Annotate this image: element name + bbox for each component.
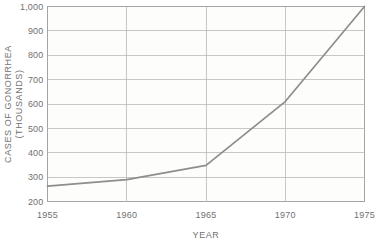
chart-container: 2003004005006007008009001,000 1955196019… (0, 0, 376, 244)
y-tick-label-500: 500 (28, 124, 44, 134)
x-tick-label-1965: 1965 (196, 210, 217, 220)
y-tick-label-400: 400 (28, 148, 44, 158)
line-chart: 2003004005006007008009001,000 1955196019… (0, 0, 376, 244)
x-tick-label-1960: 1960 (116, 210, 137, 220)
y-axis-title-line1: CASES OF GONORRHEA (3, 45, 13, 163)
x-tick-label-1975: 1975 (354, 210, 375, 220)
y-tick-label-200: 200 (28, 197, 44, 207)
x-tick-label-1970: 1970 (275, 210, 296, 220)
y-axis-title-line2: (THOUSANDS) (14, 69, 24, 138)
y-tick-label-600: 600 (28, 99, 44, 109)
x-tick-label-1955: 1955 (37, 210, 58, 220)
y-tick-label-300: 300 (28, 172, 44, 182)
y-tick-label-800: 800 (28, 50, 44, 60)
y-tick-label-900: 900 (28, 26, 44, 36)
y-tick-label-700: 700 (28, 75, 44, 85)
y-tick-label-1000: 1,000 (20, 2, 44, 12)
x-axis-title: YEAR (193, 230, 220, 240)
